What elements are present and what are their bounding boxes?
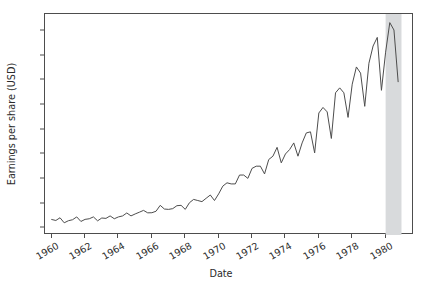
x-tick-label-text: 1978 — [334, 240, 360, 262]
x-tick-label-text: 1964 — [101, 240, 127, 262]
y-axis-label: Earnings per share (USD) — [6, 63, 17, 185]
y-axis-label-wrapper: Earnings per share (USD) — [12, 0, 14, 247]
chart-figure: Earnings per share (USD) 0246810121416 1… — [0, 0, 426, 289]
x-tick-label-text: 1968 — [167, 240, 193, 262]
plot-canvas — [45, 14, 414, 235]
x-tick-label-text: 1974 — [267, 240, 293, 262]
shaded-band — [386, 14, 402, 235]
x-tick-label: 1964 — [0, 240, 121, 289]
x-tick-label-text: 1972 — [234, 240, 260, 262]
plot-area — [44, 13, 413, 234]
x-tick-label-text: 1980 — [368, 240, 394, 262]
x-axis-label-text: Date — [209, 268, 232, 279]
x-axis-label: Date — [0, 268, 426, 279]
x-tick-label-text: 1970 — [201, 240, 227, 262]
x-tick-label-text: 1960 — [34, 240, 60, 262]
x-tick-label: 1960 — [0, 240, 55, 289]
series-line — [52, 23, 398, 223]
shaded-band-group — [386, 14, 402, 235]
x-tick-label-text: 1962 — [67, 240, 93, 262]
x-tick-label-text: 1976 — [301, 240, 327, 262]
x-tick-label-text: 1966 — [134, 240, 160, 262]
series-group — [52, 23, 398, 223]
